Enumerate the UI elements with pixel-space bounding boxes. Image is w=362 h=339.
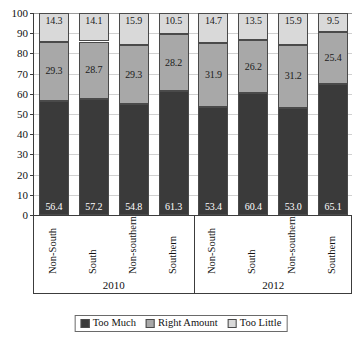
bar-segment-too-much[interactable]: 57.2 <box>79 99 109 215</box>
bar-2012-non-south[interactable]: 53.431.914.7 <box>198 13 228 215</box>
y-axis-tick-label: 20 <box>17 169 28 180</box>
bar-segment-too-much[interactable]: 60.4 <box>238 93 268 215</box>
bar-segment-too-little[interactable]: 9.5 <box>318 13 348 32</box>
bar-segment-value: 26.2 <box>245 62 262 72</box>
legend-item-too-much[interactable]: Too Much <box>81 317 136 329</box>
bar-segment-value: 31.9 <box>205 70 222 80</box>
y-axis-tick-label: 50 <box>17 109 28 120</box>
bar-segment-value: 15.9 <box>125 16 142 26</box>
legend-swatch-icon <box>228 319 237 328</box>
bar-segment-value: 65.1 <box>325 202 342 212</box>
bar-segment-value: 53.4 <box>205 202 222 212</box>
bar-segment-value: 53.0 <box>285 202 302 212</box>
bar-segment-value: 25.4 <box>325 53 342 63</box>
y-axis-tick <box>30 53 34 54</box>
bar-segment-value: 10.5 <box>165 16 182 26</box>
bar-segment-value: 29.3 <box>45 66 62 76</box>
bar-segment-value: 56.4 <box>45 202 62 212</box>
bar-segment-too-little[interactable]: 14.7 <box>198 13 228 43</box>
bar-segment-too-little[interactable]: 15.9 <box>119 13 149 45</box>
plot-area: 010203040506070809010056.429.314.357.228… <box>33 13 352 216</box>
bar-segment-too-little[interactable]: 14.3 <box>39 13 69 42</box>
bar-segment-right-amt[interactable]: 29.3 <box>119 45 149 104</box>
bar-segment-too-much[interactable]: 53.4 <box>198 107 228 215</box>
legend-label: Too Much <box>93 317 136 329</box>
y-axis-tick <box>30 94 34 95</box>
bar-segment-value: 14.3 <box>45 16 62 26</box>
bar-segment-value: 14.1 <box>85 16 102 26</box>
bar-segment-right-amt[interactable]: 28.2 <box>159 34 189 91</box>
y-axis-tick <box>30 13 34 14</box>
stacked-bar-chart: 010203040506070809010056.429.314.357.228… <box>0 0 362 339</box>
bar-2012-non-southern[interactable]: 53.031.215.9 <box>278 13 308 215</box>
bar-segment-right-amt[interactable]: 28.7 <box>79 42 109 100</box>
y-axis-tick <box>30 74 34 75</box>
bar-segment-too-much[interactable]: 54.8 <box>119 104 149 215</box>
legend-label: Too Little <box>240 317 282 329</box>
bar-segment-too-much[interactable]: 61.3 <box>159 91 189 215</box>
bar-segment-value: 9.5 <box>327 16 339 26</box>
bar-2012-south[interactable]: 60.426.213.5 <box>238 13 268 215</box>
bar-segment-value: 57.2 <box>85 202 102 212</box>
x-axis-category-label: Southern <box>326 218 362 274</box>
y-axis-tick <box>30 33 34 34</box>
y-axis-tick <box>30 114 34 115</box>
bar-segment-too-much[interactable]: 53.0 <box>278 108 308 215</box>
bar-segment-value: 28.2 <box>165 58 182 68</box>
y-axis-tick-label: 70 <box>17 68 28 79</box>
bar-segment-value: 29.3 <box>125 70 142 80</box>
bar-segment-value: 28.7 <box>85 65 102 75</box>
bar-segment-right-amt[interactable]: 29.3 <box>39 42 69 101</box>
y-axis-tick <box>30 195 34 196</box>
category-axis-band: Non-SouthSouthNon-southernSouthernNon-So… <box>33 216 352 294</box>
bar-2012-southern[interactable]: 65.125.49.5 <box>318 13 348 215</box>
bar-segment-value: 60.4 <box>245 202 262 212</box>
bar-segment-value: 31.2 <box>285 71 302 81</box>
bar-2010-southern[interactable]: 61.328.210.5 <box>159 13 189 215</box>
bar-segment-value: 61.3 <box>165 202 182 212</box>
legend-label: Right Amount <box>158 317 218 329</box>
x-axis-group-label-2010: 2010 <box>34 279 194 291</box>
bar-segment-right-amt[interactable]: 31.9 <box>198 43 228 107</box>
bar-segment-too-little[interactable]: 15.9 <box>278 13 308 45</box>
bar-segment-value: 15.9 <box>285 16 302 26</box>
legend-swatch-icon <box>146 319 155 328</box>
bar-segment-value: 54.8 <box>125 202 142 212</box>
bar-segment-right-amt[interactable]: 31.2 <box>278 45 308 108</box>
y-axis-tick-label: 30 <box>17 149 28 160</box>
y-axis-tick-label: 60 <box>17 88 28 99</box>
y-axis-tick <box>30 134 34 135</box>
bar-segment-value: 14.7 <box>205 16 222 26</box>
legend-item-right-amount[interactable]: Right Amount <box>146 317 218 329</box>
bar-2010-non-south[interactable]: 56.429.314.3 <box>39 13 69 215</box>
y-axis-tick-label: 0 <box>23 210 29 221</box>
y-axis-tick-label: 40 <box>17 129 28 140</box>
bar-segment-too-much[interactable]: 65.1 <box>318 84 348 216</box>
bar-segment-too-little[interactable]: 13.5 <box>238 13 268 40</box>
y-axis-tick-label: 80 <box>17 48 28 59</box>
y-axis-tick-label: 100 <box>12 8 29 19</box>
bar-segment-too-little[interactable]: 14.1 <box>79 13 109 41</box>
chart-legend: Too MuchRight AmountToo Little <box>75 315 288 332</box>
legend-item-too-little[interactable]: Too Little <box>228 317 282 329</box>
bar-segment-too-little[interactable]: 10.5 <box>159 13 189 34</box>
y-axis-tick <box>30 154 34 155</box>
bar-segment-right-amt[interactable]: 26.2 <box>238 40 268 93</box>
bar-segment-too-much[interactable]: 56.4 <box>39 101 69 215</box>
bar-segment-value: 13.5 <box>245 16 262 26</box>
bar-2010-south[interactable]: 57.228.714.1 <box>79 13 109 215</box>
bar-2010-non-southern[interactable]: 54.829.315.9 <box>119 13 149 215</box>
y-axis-tick-label: 90 <box>17 28 28 39</box>
legend-swatch-icon <box>81 319 90 328</box>
x-axis-group-label-2012: 2012 <box>194 279 354 291</box>
y-axis-tick-label: 10 <box>17 189 28 200</box>
y-axis-tick <box>30 175 34 176</box>
bar-segment-right-amt[interactable]: 25.4 <box>318 32 348 83</box>
